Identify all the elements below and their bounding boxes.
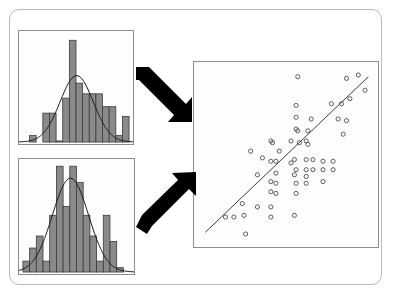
scatter-point: [244, 232, 248, 236]
scatter-point: [363, 88, 367, 92]
scatter-point: [249, 149, 253, 153]
scatter-point: [321, 179, 325, 183]
regression-line: [205, 77, 368, 233]
scatter-point: [321, 159, 325, 163]
histogram-bar: [103, 215, 110, 272]
histogram-bar: [122, 116, 129, 142]
histogram-bar: [97, 261, 104, 272]
scatter-point: [240, 201, 244, 205]
scatter-point: [296, 75, 300, 79]
scatter-point: [304, 157, 308, 161]
scatter-point: [311, 157, 315, 161]
scatter-point: [304, 168, 308, 172]
histogram-bar: [90, 236, 97, 272]
histogram-bar: [50, 215, 57, 272]
histogram-top-svg: [19, 31, 133, 144]
scatter-point: [292, 213, 296, 217]
scatter-point: [344, 76, 348, 80]
scatter-svg: [194, 62, 378, 247]
histogram-bar: [56, 166, 63, 272]
scatter-point: [289, 139, 293, 143]
histogram-bar: [83, 215, 90, 272]
scatter-point: [255, 205, 259, 209]
figure-root: [0, 0, 393, 295]
scatter-point: [274, 171, 278, 175]
scatter-point: [274, 191, 278, 195]
scatter-point: [331, 159, 335, 163]
scatter-point: [306, 142, 310, 146]
scatter-point: [269, 159, 273, 163]
histogram-bar: [30, 248, 37, 272]
histogram-bottom-svg: [19, 159, 134, 274]
scatter-point: [269, 179, 273, 183]
scatter-point: [306, 129, 310, 133]
histogram-bar: [96, 94, 103, 142]
histogram-bottom-plot-area: [19, 159, 134, 274]
histogram-bottom-bars: [23, 166, 123, 272]
histogram-bar: [69, 40, 76, 142]
scatter-point: [348, 97, 352, 101]
scatter-point: [294, 181, 298, 185]
histogram-bar: [76, 83, 83, 142]
scatter-point: [294, 115, 298, 119]
scatter-point: [309, 117, 313, 121]
scatter-point: [311, 168, 315, 172]
scatter-point: [356, 73, 360, 77]
scatter-point: [277, 149, 281, 153]
scatter-plot-area: [194, 62, 378, 247]
histogram-bar: [63, 98, 70, 142]
scatter-point: [255, 173, 259, 177]
scatter-point: [304, 181, 308, 185]
histogram-panel-bottom: [18, 158, 135, 275]
scatter-point: [242, 213, 246, 217]
histogram-bar: [56, 141, 63, 142]
scatter-point: [269, 205, 273, 209]
histogram-bar: [83, 94, 90, 142]
scatter-point: [294, 103, 298, 107]
histogram-panel-top: [18, 30, 134, 145]
scatter-point: [260, 156, 264, 160]
scatter-point: [269, 190, 273, 194]
scatter-point: [274, 181, 278, 185]
scatter-point: [336, 117, 340, 121]
scatter-point: [292, 173, 296, 177]
scatter-point: [223, 215, 227, 219]
histogram-top-bars: [30, 40, 130, 142]
histogram-bar: [63, 207, 70, 272]
scatter-point: [321, 168, 325, 172]
scatter-point: [344, 119, 348, 123]
histogram-bar: [43, 113, 50, 142]
scatter-panel: [193, 61, 379, 248]
scatter-point: [304, 174, 308, 178]
scatter-point: [331, 168, 335, 172]
histogram-bar: [23, 261, 30, 272]
scatter-point: [341, 132, 345, 136]
scatter-point: [274, 159, 278, 163]
scatter-point: [294, 168, 298, 172]
histogram-bar: [43, 261, 50, 272]
histogram-top-plot-area: [19, 31, 133, 144]
scatter-point: [232, 215, 236, 219]
scatter-point: [292, 157, 296, 161]
scatter-points: [223, 73, 367, 236]
scatter-point: [269, 215, 273, 219]
scatter-point: [294, 191, 298, 195]
scatter-point: [329, 102, 333, 106]
scatter-point: [289, 161, 293, 165]
